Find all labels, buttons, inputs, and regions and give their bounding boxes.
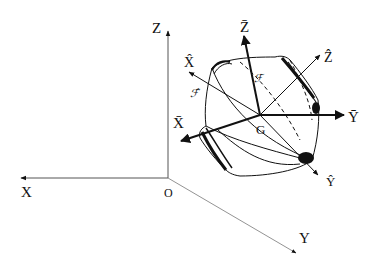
y-axis xyxy=(168,178,296,253)
x-hat-axis xyxy=(189,72,260,115)
y-hat-axis xyxy=(260,115,318,175)
rigid-body-frames-diagram: Z X Y O Z̄ xyxy=(0,0,376,270)
z-hat-label: Ẑ xyxy=(324,49,333,65)
center-of-mass-label: G xyxy=(256,122,265,137)
surface-f-label: ℱ xyxy=(254,72,265,85)
y-bar-label: Ȳ xyxy=(348,109,359,125)
hat-frame: Ẑ X̂ Ŷ xyxy=(184,49,336,189)
y-hat-label: Ŷ xyxy=(326,174,336,189)
z-bar-label: Z̄ xyxy=(240,19,249,35)
z-axis-label: Z xyxy=(152,20,161,36)
body-frame: Z̄ Ȳ X̄ G xyxy=(173,19,359,141)
x-bar-axis xyxy=(181,115,260,141)
x-axis-label: X xyxy=(21,184,32,200)
x-bar-label: X̄ xyxy=(173,115,184,131)
x-hat-label: X̂ xyxy=(184,54,194,70)
surface-f-hat-label: ℱ̂ xyxy=(190,87,201,100)
y-axis-label: Y xyxy=(299,230,310,246)
origin-label: O xyxy=(164,186,173,200)
